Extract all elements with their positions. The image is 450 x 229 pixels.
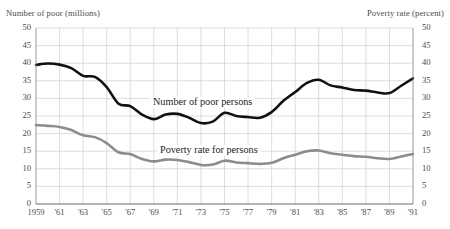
x-axis-tick: '79: [267, 208, 277, 217]
x-axis-tick: '81: [290, 208, 300, 217]
series-label-number-of-poor: Number of poor persons: [150, 97, 255, 108]
x-axis-tick: '91: [408, 208, 418, 217]
x-axis-tick: '63: [78, 208, 88, 217]
x-axis-tick: '77: [243, 208, 253, 217]
x-axis-tick: '67: [125, 208, 135, 217]
series-label-poverty-rate: Poverty rate for persons: [157, 145, 261, 156]
x-axis-tick-labels: 1959'61'63'65'67'69'71'73'75'77'79'81'83…: [0, 0, 450, 229]
poverty-chart: Number of poor (millions) Poverty rate (…: [0, 0, 450, 229]
x-axis-tick: '89: [384, 208, 394, 217]
x-axis-tick: '61: [55, 208, 65, 217]
x-axis-tick: '69: [149, 208, 159, 217]
x-axis-tick: '87: [361, 208, 371, 217]
x-axis-tick: '65: [102, 208, 112, 217]
x-axis-tick: '85: [337, 208, 347, 217]
x-axis-tick: '71: [172, 208, 182, 217]
x-axis-tick: '73: [196, 208, 206, 217]
x-axis-tick: '83: [314, 208, 324, 217]
x-axis-tick: 1959: [27, 208, 44, 217]
x-axis-tick: '75: [219, 208, 229, 217]
